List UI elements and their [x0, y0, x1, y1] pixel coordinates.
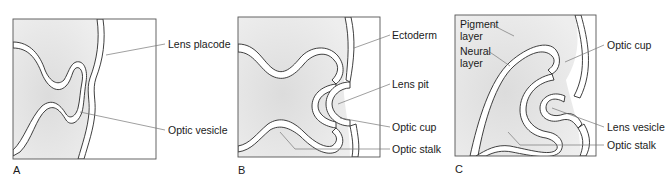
- label-optic-stalk: Optic stalk: [607, 139, 657, 151]
- panel-label-b: B: [238, 164, 245, 176]
- panel-c: Pigment layer Neural layer Optic cup Len…: [455, 15, 665, 175]
- eye-development-diagram: Lens placode Optic vesicle A Ectoderm Le…: [0, 0, 667, 179]
- panel-label-c: C: [455, 163, 463, 175]
- label-neural: Neural: [460, 45, 491, 57]
- label-neural-layer: layer: [460, 57, 483, 69]
- label-lens-vesicle: Lens vesicle: [607, 121, 665, 133]
- label-ectoderm: Ectoderm: [392, 29, 437, 41]
- label-optic-vesicle: Optic vesicle: [168, 124, 228, 136]
- panel-a: Lens placode Optic vesicle A: [13, 19, 231, 176]
- panel-label-a: A: [13, 164, 21, 176]
- label-pigment-layer: layer: [460, 30, 483, 42]
- label-lens-placode: Lens placode: [168, 38, 231, 50]
- leader-ectoderm: [354, 35, 390, 48]
- label-pigment: Pigment: [460, 18, 499, 30]
- label-lens-pit: Lens pit: [392, 78, 429, 90]
- panel-b: Ectoderm Lens pit Optic cup Optic stalk …: [238, 17, 442, 176]
- label-optic-cup: Optic cup: [607, 39, 652, 51]
- ectoderm-lower: [350, 124, 359, 157]
- label-optic-cup: Optic cup: [392, 121, 437, 133]
- label-optic-stalk: Optic stalk: [392, 143, 442, 155]
